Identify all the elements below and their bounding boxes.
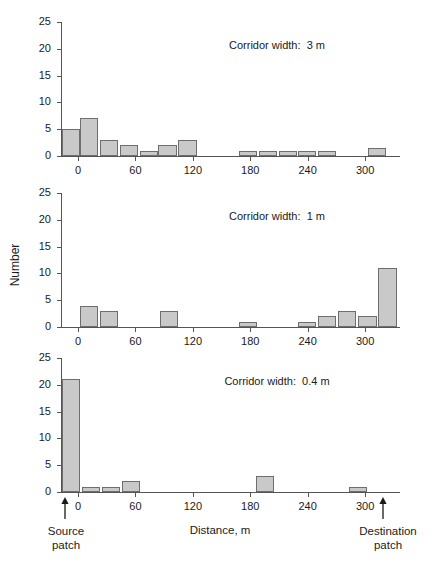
- figure-histogram-panels: Number 0510152025060120180240300Corridor…: [0, 0, 439, 566]
- y-tick-label: 15: [31, 241, 51, 252]
- y-tick: [57, 412, 61, 413]
- histogram-bar: [80, 118, 98, 156]
- histogram-bar: [62, 379, 80, 492]
- x-axis-title: Distance, m: [160, 524, 280, 536]
- x-tick-label: 240: [288, 165, 328, 176]
- histogram-bar: [256, 476, 274, 492]
- y-tick: [57, 76, 61, 77]
- x-axis-line: [61, 492, 400, 493]
- y-tick-label: 20: [31, 43, 51, 54]
- x-tick-label: 180: [230, 165, 270, 176]
- x-tick: [193, 493, 194, 497]
- y-tick: [57, 273, 61, 274]
- histogram-bar: [100, 311, 118, 327]
- x-tick: [365, 157, 366, 161]
- y-tick-label: 25: [31, 16, 51, 27]
- histogram-bar: [318, 151, 336, 156]
- x-tick: [308, 157, 309, 161]
- y-tick-label: 0: [31, 321, 51, 332]
- y-axis-line: [61, 193, 62, 328]
- x-tick-label: 180: [230, 336, 270, 347]
- x-tick-label: 300: [345, 336, 385, 347]
- x-tick: [308, 493, 309, 497]
- x-tick-label: 120: [173, 336, 213, 347]
- y-tick-label: 15: [31, 406, 51, 417]
- y-tick: [57, 102, 61, 103]
- x-tick-label: 120: [173, 501, 213, 512]
- y-tick: [57, 358, 61, 359]
- y-tick-label: 15: [31, 70, 51, 81]
- histogram-bar: [102, 487, 120, 492]
- histogram-bar: [368, 148, 386, 156]
- source-patch-line1: Source: [24, 524, 108, 538]
- x-tick-label: 0: [58, 165, 98, 176]
- y-tick: [57, 492, 61, 493]
- histogram-bar: [62, 129, 80, 156]
- x-tick: [78, 157, 79, 161]
- x-tick: [135, 328, 136, 332]
- y-tick: [57, 438, 61, 439]
- x-tick-label: 60: [115, 165, 155, 176]
- histogram-bar: [298, 151, 316, 156]
- histogram-bar: [279, 151, 297, 156]
- y-tick-label: 5: [31, 123, 51, 134]
- y-tick-label: 10: [31, 432, 51, 443]
- histogram-bar: [158, 145, 176, 156]
- destination-patch-line1: Destination: [340, 524, 436, 538]
- x-tick-label: 240: [288, 336, 328, 347]
- y-tick: [57, 300, 61, 301]
- y-tick-label: 25: [31, 352, 51, 363]
- y-tick-label: 5: [31, 459, 51, 470]
- panel-annotation-corridor-width: Corridor width: 1 m: [229, 210, 325, 222]
- x-tick-label: 240: [288, 501, 328, 512]
- source-patch-line2: patch: [24, 538, 108, 552]
- histogram-bar: [178, 140, 196, 156]
- y-tick: [57, 22, 61, 23]
- x-tick: [250, 328, 251, 332]
- chart-panel-1: 0510152025060120180240300Corridor width:…: [0, 0, 439, 566]
- histogram-bar: [358, 316, 376, 327]
- x-tick: [78, 328, 79, 332]
- x-tick-label: 0: [58, 336, 98, 347]
- chart-panel-2: 0510152025060120180240300Corridor width:…: [0, 0, 439, 566]
- histogram-bar: [259, 151, 277, 156]
- chart-panel-3: 0510152025060120180240300Corridor width:…: [0, 0, 439, 566]
- y-tick-label: 25: [31, 187, 51, 198]
- y-tick-label: 10: [31, 96, 51, 107]
- panel-annotation-corridor-width: Corridor width: 0.4 m: [224, 375, 329, 387]
- histogram-bar: [160, 311, 178, 327]
- histogram-bar: [318, 316, 336, 327]
- x-tick-label: 180: [230, 501, 270, 512]
- y-tick-label: 20: [31, 214, 51, 225]
- x-tick-label: 120: [173, 165, 213, 176]
- destination-arrow-icon: [376, 497, 390, 519]
- x-tick: [250, 157, 251, 161]
- histogram-bar: [80, 306, 98, 327]
- histogram-bar: [82, 487, 100, 492]
- x-axis-line: [61, 156, 400, 157]
- x-tick: [308, 328, 309, 332]
- histogram-bar: [120, 145, 138, 156]
- histogram-bar: [349, 487, 367, 492]
- histogram-bar: [100, 140, 118, 156]
- y-tick: [57, 327, 61, 328]
- histogram-bar: [140, 151, 158, 156]
- x-tick-label: 60: [115, 501, 155, 512]
- histogram-bar: [298, 322, 316, 327]
- destination-patch-line2: patch: [340, 538, 436, 552]
- y-tick: [57, 156, 61, 157]
- y-tick: [57, 385, 61, 386]
- y-tick-label: 0: [31, 150, 51, 161]
- x-tick: [193, 328, 194, 332]
- destination-patch-label: Destination patch: [340, 524, 436, 552]
- y-axis-line: [61, 358, 62, 493]
- y-tick-label: 20: [31, 379, 51, 390]
- x-tick: [365, 493, 366, 497]
- panel-annotation-corridor-width: Corridor width: 3 m: [229, 39, 325, 51]
- histogram-bar: [239, 322, 257, 327]
- histogram-bar: [239, 151, 257, 156]
- histogram-bar: [338, 311, 356, 327]
- y-axis-label: Number: [8, 235, 22, 295]
- x-tick: [193, 157, 194, 161]
- x-tick: [135, 157, 136, 161]
